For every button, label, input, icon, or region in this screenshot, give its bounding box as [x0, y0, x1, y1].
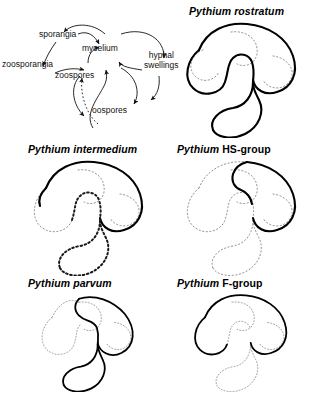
cycle-shape-f-group	[163, 292, 313, 392]
panel-title-epithet: rostratum	[234, 5, 284, 17]
legend-node-zoospores: zoospores	[55, 71, 94, 81]
panel-title-hs-group: Pythium HS-group	[177, 143, 271, 155]
legend-node-sporangia: sporangia	[39, 30, 76, 40]
panel-title-genus: Pythium	[177, 143, 219, 155]
legend-node-zoosporangia: zoosporangia	[2, 60, 53, 70]
panel-title-genus: Pythium	[28, 143, 70, 155]
panel-title-intermedium: Pythium intermedium	[28, 143, 137, 155]
panel-hs-group: Pythium HS-group	[163, 138, 313, 278]
panel-title-epithet: parvum	[73, 277, 112, 289]
legend-node-oospores: oospores	[92, 106, 127, 116]
panel-title-f-group: Pythium F-group	[177, 277, 263, 289]
panel-title-epithet: F-group	[222, 277, 262, 289]
panel-title-parvum: Pythium parvum	[28, 277, 112, 289]
legend-node-mycelium: mycelium	[82, 44, 118, 54]
panel-f-group: Pythium F-group	[163, 272, 313, 393]
panel-title-genus: Pythium	[189, 5, 231, 17]
cycle-shape-rostratum	[163, 20, 313, 138]
legend-panel: sporangia mycelium zoosporangia zoospore…	[0, 18, 190, 138]
panel-rostratum: Pythium rostratum	[163, 0, 313, 140]
panel-parvum: Pythium parvum	[10, 272, 160, 393]
legend-cycle-arrows	[0, 18, 190, 138]
panel-title-epithet: intermedium	[73, 143, 137, 155]
panel-title-genus: Pythium	[28, 277, 70, 289]
cycle-shape-hs-group	[163, 158, 313, 276]
pythium-life-cycle-figure: sporangia mycelium zoosporangia zoospore…	[0, 0, 313, 393]
panel-title-genus: Pythium	[177, 277, 219, 289]
cycle-shape-intermedium	[10, 158, 160, 276]
cycle-shape-parvum	[10, 292, 160, 392]
panel-title-epithet: HS-group	[222, 143, 271, 155]
panel-intermedium: Pythium intermedium	[10, 138, 160, 278]
panel-title-rostratum: Pythium rostratum	[189, 5, 284, 17]
